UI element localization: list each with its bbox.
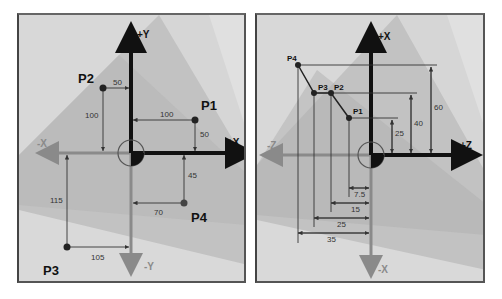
dim-p1-y: 50 (200, 130, 209, 139)
label-p1: P1 (353, 107, 363, 116)
point-p4-icon (181, 200, 188, 207)
axis-label-pos-x: +X (378, 31, 391, 42)
dim-p3-x: 105 (91, 253, 105, 262)
axis-label-pos-z: +Z (460, 140, 472, 151)
dim-z-25: 25 (337, 220, 346, 229)
dim-p2-y: 100 (85, 111, 99, 120)
dim-z-35: 35 (327, 235, 336, 244)
label-p3: P3 (43, 263, 59, 278)
zx-diagram-canvas: +X +Z -Z -X P4 P3 P2 P1 60 40 25 7.5 15 … (257, 15, 485, 283)
axis-label-neg-x: -X (37, 138, 47, 149)
label-p3: P3 (318, 83, 328, 92)
dim-p4-y: 45 (188, 171, 197, 180)
dim-p1-x: 100 (160, 110, 174, 119)
dim-p2-x: 50 (113, 78, 122, 87)
label-p4: P4 (287, 54, 297, 63)
dim-p4-x: 70 (154, 208, 163, 217)
dim-z-7-5: 7.5 (354, 190, 366, 199)
point-p1-icon (346, 115, 352, 121)
label-p4: P4 (191, 210, 208, 225)
axis-label-neg-z: -Z (267, 140, 276, 151)
axis-label-pos-y: +Y (137, 29, 150, 40)
dim-z-15: 15 (351, 205, 360, 214)
point-p1-icon (192, 117, 199, 124)
dim-x-25: 25 (395, 129, 404, 138)
label-p2: P2 (334, 83, 344, 92)
dim-x-60: 60 (434, 103, 443, 112)
axis-label-pos-x: +X (227, 137, 240, 148)
dim-x-40: 40 (414, 119, 423, 128)
label-p2: P2 (78, 71, 94, 86)
xy-plane-diagram: +Y +X -X -Y P2 P1 P3 P4 50 100 100 50 11… (17, 13, 246, 283)
zx-plane-diagram: +X +Z -Z -X P4 P3 P2 P1 60 40 25 7.5 15 … (255, 13, 485, 283)
axis-label-neg-x: -X (378, 264, 388, 275)
xy-diagram-canvas: +Y +X -X -Y P2 P1 P3 P4 50 100 100 50 11… (19, 15, 246, 283)
point-p3-icon (311, 90, 317, 96)
dim-p3-y: 115 (50, 196, 63, 205)
axis-label-neg-y: -Y (144, 261, 154, 272)
point-p2-icon (100, 85, 107, 92)
point-p3-icon (64, 244, 71, 251)
label-p1: P1 (201, 98, 217, 113)
